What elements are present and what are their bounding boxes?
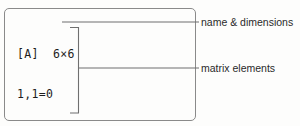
calculator-lcd-screen: [A] 6×6 1,1=0 1,2=0 1,3=0 1,4=0 1,5=0 1,…	[4, 8, 196, 121]
matrix-name-and-dimensions-line: [A] 6×6	[17, 48, 75, 61]
matrix-element-row: 1,1=0	[17, 88, 75, 101]
matrix-display-text: [A] 6×6 1,1=0 1,2=0 1,3=0 1,4=0 1,5=0 1,…	[17, 21, 75, 126]
annotation-label-matrix-elements: matrix elements	[201, 62, 275, 74]
annotation-label-name-dimensions: name & dimensions	[201, 16, 293, 28]
matrix-editor-annotated-diagram: [A] 6×6 1,1=0 1,2=0 1,3=0 1,4=0 1,5=0 1,…	[0, 0, 300, 126]
